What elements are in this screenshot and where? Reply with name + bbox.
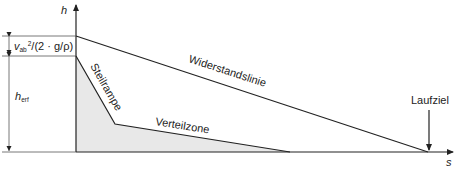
h-axis-label: h [61, 4, 67, 16]
s-axis-label: s [446, 156, 452, 168]
lower-dimension-label: herf [15, 90, 29, 103]
target-label: Laufziel [411, 94, 449, 106]
diagram-canvas: h s vab2/(2 · g/ρ) herf Widerstandslinie… [0, 0, 458, 169]
resistance-line-label: Widerstandslinie [187, 52, 267, 88]
shaded-area [76, 56, 290, 152]
upper-dimension-label: vab2/(2 · g/ρ) [14, 40, 73, 53]
